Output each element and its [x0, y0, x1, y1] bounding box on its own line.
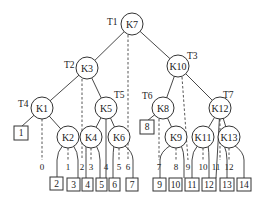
- tree-edges: [21, 24, 244, 178]
- node-k1: K1: [31, 97, 53, 119]
- leaf-3: 3: [67, 178, 80, 191]
- internal-nodes: K7 K3 K10 K1 K5 K8 K12 K2 K4 K6 K9 K11 K…: [31, 13, 240, 148]
- node-k12: K12: [209, 97, 231, 119]
- leaf-1: 1: [14, 126, 28, 140]
- node-k7: K7: [121, 13, 143, 35]
- node-k5: K5: [95, 97, 117, 119]
- svg-text:K3: K3: [81, 63, 93, 74]
- leaf-12: 12: [202, 178, 216, 191]
- svg-text:6: 6: [112, 180, 117, 190]
- leaf-8: 8: [140, 120, 154, 134]
- svg-text:K13: K13: [220, 132, 237, 143]
- svg-text:K7: K7: [126, 19, 138, 30]
- leaf-9: 9: [153, 178, 166, 191]
- node-k9: K9: [165, 126, 187, 148]
- svg-text:K4: K4: [85, 132, 97, 143]
- node-k6: K6: [108, 126, 130, 148]
- tree-diagram: 0 1 2 3 4 5 6 7 8 9 10 11 12: [0, 0, 271, 206]
- pointer-7: 7: [157, 162, 162, 172]
- node-k3: K3: [76, 57, 98, 79]
- svg-text:K1: K1: [36, 103, 48, 114]
- node-k2: K2: [57, 126, 79, 148]
- tag-t7: T7: [223, 90, 234, 100]
- node-k10: K10: [167, 55, 189, 77]
- svg-text:8: 8: [145, 122, 150, 132]
- leaf-13: 13: [220, 178, 234, 191]
- node-k11: K11: [192, 126, 214, 148]
- svg-text:K5: K5: [100, 103, 112, 114]
- svg-text:K6: K6: [113, 132, 125, 143]
- pointer-6: 6: [126, 162, 131, 172]
- tag-t2: T2: [64, 60, 75, 70]
- tag-t4: T4: [18, 99, 29, 109]
- tag-t1: T1: [107, 17, 118, 27]
- leaf-10: 10: [169, 178, 182, 191]
- tag-t6: T6: [142, 91, 153, 101]
- tag-t3: T3: [187, 51, 198, 61]
- pointer-3: 3: [89, 162, 94, 172]
- pointer-10: 10: [199, 162, 209, 172]
- svg-text:13: 13: [222, 180, 232, 190]
- svg-text:3: 3: [71, 180, 76, 190]
- leaf-14: 14: [237, 178, 251, 191]
- pointer-5: 5: [117, 162, 122, 172]
- svg-text:K9: K9: [170, 132, 182, 143]
- pointer-12: 12: [225, 162, 234, 172]
- pointer-2: 2: [80, 162, 85, 172]
- svg-text:K2: K2: [62, 132, 74, 143]
- node-k13: K13: [218, 126, 240, 148]
- svg-text:10: 10: [171, 180, 181, 190]
- leaf-4: 4: [82, 178, 93, 191]
- leaf-2: 2: [50, 177, 63, 190]
- svg-text:9: 9: [157, 180, 162, 190]
- svg-text:1: 1: [19, 128, 24, 138]
- svg-text:K12: K12: [211, 103, 228, 114]
- svg-text:7: 7: [130, 180, 135, 190]
- leaf-11: 11: [185, 178, 199, 191]
- svg-text:11: 11: [187, 180, 196, 190]
- svg-text:12: 12: [204, 180, 214, 190]
- node-k4: K4: [80, 126, 102, 148]
- svg-text:4: 4: [85, 180, 90, 190]
- pointer-9: 9: [186, 162, 191, 172]
- leaf-7: 7: [126, 178, 138, 191]
- node-k8: K8: [152, 97, 174, 119]
- pointer-1: 1: [66, 162, 71, 172]
- svg-text:K8: K8: [157, 103, 169, 114]
- svg-text:K10: K10: [169, 61, 186, 72]
- pointer-labels: 0 1 2 3 4 5 6 7 8 9 10 11 12: [40, 162, 234, 172]
- svg-text:14: 14: [239, 180, 249, 190]
- svg-text:2: 2: [54, 179, 59, 189]
- svg-text:5: 5: [99, 180, 104, 190]
- leaf-5: 5: [96, 178, 107, 191]
- pointer-8: 8: [174, 162, 179, 172]
- leaf-6: 6: [109, 178, 120, 191]
- svg-text:K11: K11: [195, 132, 212, 143]
- tag-t5: T5: [114, 90, 125, 100]
- pointer-0: 0: [40, 162, 45, 172]
